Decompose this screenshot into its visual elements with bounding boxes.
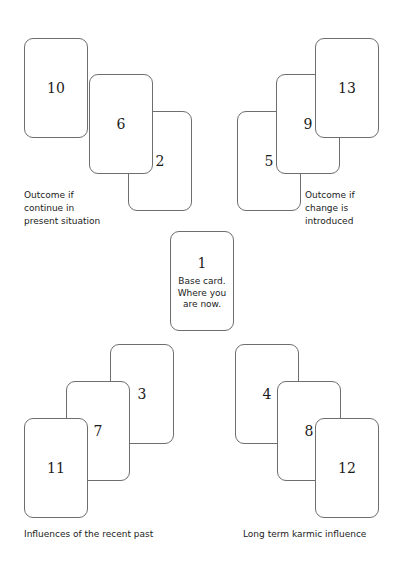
card-number: 1 (198, 255, 207, 271)
caption-top-left: Outcome if continue in present situation (24, 189, 100, 228)
card-10[interactable]: 10 (24, 38, 88, 138)
card-number: 6 (90, 117, 152, 131)
card-number: 11 (25, 461, 87, 475)
card-number: 13 (316, 81, 378, 95)
card-number: 12 (316, 461, 378, 475)
caption-bottom-right: Long term karmic influence (243, 528, 366, 541)
card-6[interactable]: 6 (89, 74, 153, 174)
caption-top-right: Outcome if change is introduced (305, 189, 355, 228)
base-card-description: Base card. Where you are now. (171, 276, 233, 312)
card-12[interactable]: 12 (315, 418, 379, 518)
tarot-spread-diagram: 10 6 2 Outcome if continue in present si… (0, 0, 400, 568)
caption-bottom-left: Influences of the recent past (24, 528, 153, 541)
card-11[interactable]: 11 (24, 418, 88, 518)
card-number: 10 (25, 81, 87, 95)
card-13[interactable]: 13 (315, 38, 379, 138)
card-1-base[interactable]: 1 Base card. Where you are now. (170, 231, 234, 331)
